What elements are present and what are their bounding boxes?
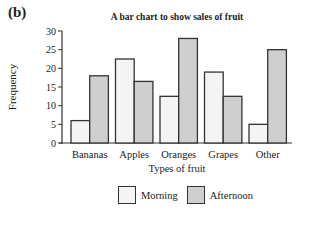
y-tick-label: 0 [51,138,56,149]
bar-morning-grapes [205,72,224,143]
y-tick-label: 10 [46,100,56,111]
bar-afternoon-other [268,50,287,143]
x-tick-label: Grapes [208,149,238,160]
bar-afternoon-bananas [90,76,109,143]
x-tick-label: Bananas [72,149,108,160]
y-tick-label: 5 [51,119,56,130]
legend-swatch-morning [118,186,136,204]
bar-afternoon-oranges [179,38,198,143]
legend: Morning Afternoon [118,186,262,204]
legend-label-morning: Morning [141,190,178,201]
x-tick-label: Oranges [161,149,196,160]
legend-swatch-afternoon [187,186,205,204]
bar-morning-apples [116,59,135,143]
legend-item-morning: Morning [118,186,178,204]
bar-afternoon-grapes [223,96,242,143]
x-tick-label: Other [256,149,280,160]
y-tick-label: 25 [46,44,56,55]
legend-label-afternoon: Afternoon [210,190,253,201]
bar-afternoon-apples [134,81,153,143]
y-tick-label: 15 [46,82,56,93]
bar-morning-bananas [71,121,90,143]
x-tick-label: Apples [119,149,149,160]
bar-morning-oranges [160,96,179,143]
y-tick-label: 30 [46,26,56,37]
x-axis-label: Types of fruit [62,163,292,174]
y-tick-label: 20 [46,63,56,74]
bar-morning-other [249,124,268,143]
legend-item-afternoon: Afternoon [187,186,253,204]
